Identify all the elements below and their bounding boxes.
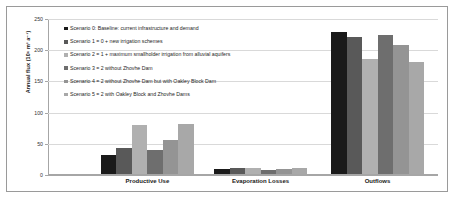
x-axis-category-label: Evaporation Losses bbox=[214, 178, 307, 184]
legend-label: Scenario 3 = 2 without Zhovhe Dam bbox=[70, 66, 153, 71]
bar bbox=[292, 168, 308, 174]
legend-swatch-icon bbox=[64, 66, 68, 70]
y-axis-tick bbox=[45, 50, 48, 51]
bar bbox=[362, 59, 378, 174]
chart-screenshot: Annual flux (10⁶ m³ a⁻¹) 050100150200250… bbox=[0, 0, 456, 199]
bar bbox=[147, 150, 163, 174]
y-axis-tick-label: 150 bbox=[34, 78, 43, 84]
y-axis-tick bbox=[45, 175, 48, 176]
legend-item-scenario-0: Scenario 0: Baseline: current infrastruc… bbox=[64, 22, 294, 35]
y-axis-tick bbox=[45, 144, 48, 145]
legend-item-scenario-4: Scenario 4 = 2 without Zhovhe Dam but wi… bbox=[64, 75, 294, 88]
bar bbox=[261, 170, 277, 174]
bar bbox=[409, 62, 425, 174]
bar bbox=[393, 45, 409, 174]
chart-legend: Scenario 0: Baseline: current infrastruc… bbox=[64, 22, 294, 101]
y-axis-title-text: Annual flux (10⁶ m³ a⁻¹) bbox=[25, 31, 31, 94]
legend-item-scenario-1: Scenario 1 = 0 + new irrigation schemes bbox=[64, 35, 294, 48]
bar bbox=[276, 169, 292, 174]
x-axis-category-label: Productive Use bbox=[101, 178, 194, 184]
y-axis-tick bbox=[45, 113, 48, 114]
bar bbox=[331, 32, 347, 174]
legend-label: Scenario 4 = 2 without Zhovhe Dam but wi… bbox=[70, 79, 216, 84]
y-axis-tick-label: 0 bbox=[40, 172, 43, 178]
bar bbox=[163, 140, 179, 174]
y-axis-tick-label: 100 bbox=[34, 110, 43, 116]
legend-swatch-icon bbox=[64, 80, 68, 84]
legend-swatch-icon bbox=[64, 93, 68, 97]
bar bbox=[347, 37, 363, 174]
legend-swatch-icon bbox=[64, 53, 68, 57]
y-axis-tick-label: 50 bbox=[37, 141, 43, 147]
bar bbox=[245, 168, 261, 174]
chart-frame: Annual flux (10⁶ m³ a⁻¹) 050100150200250… bbox=[6, 6, 448, 192]
legend-label: Scenario 1 = 0 + new irrigation schemes bbox=[70, 39, 163, 44]
bar bbox=[214, 169, 230, 174]
bar-group: Outflows bbox=[331, 18, 424, 174]
gridline bbox=[48, 175, 438, 176]
y-axis-tick bbox=[45, 19, 48, 20]
legend-label: Scenario 5 = 2 with Oakley Block and Zho… bbox=[70, 92, 190, 97]
bar bbox=[230, 168, 246, 174]
legend-label: Scenario 2 = 1 + maximum smallholder irr… bbox=[70, 52, 230, 57]
bar bbox=[132, 125, 148, 174]
y-axis-tick-label: 200 bbox=[34, 47, 43, 53]
bar bbox=[101, 155, 117, 174]
legend-swatch-icon bbox=[64, 40, 68, 44]
y-axis-tick bbox=[45, 81, 48, 82]
bar bbox=[378, 35, 394, 174]
y-axis-line bbox=[48, 19, 49, 175]
y-axis-tick-label: 250 bbox=[34, 16, 43, 22]
legend-item-scenario-3: Scenario 3 = 2 without Zhovhe Dam bbox=[64, 62, 294, 75]
bar bbox=[178, 124, 194, 174]
x-axis-category-label: Outflows bbox=[331, 178, 424, 184]
legend-item-scenario-2: Scenario 2 = 1 + maximum smallholder irr… bbox=[64, 48, 294, 61]
y-axis-title: Annual flux (10⁶ m³ a⁻¹) bbox=[25, 17, 31, 107]
legend-item-scenario-5: Scenario 5 = 2 with Oakley Block and Zho… bbox=[64, 88, 294, 101]
legend-swatch-icon bbox=[64, 27, 68, 31]
legend-label: Scenario 0: Baseline: current infrastruc… bbox=[70, 26, 199, 31]
bar bbox=[116, 148, 132, 174]
